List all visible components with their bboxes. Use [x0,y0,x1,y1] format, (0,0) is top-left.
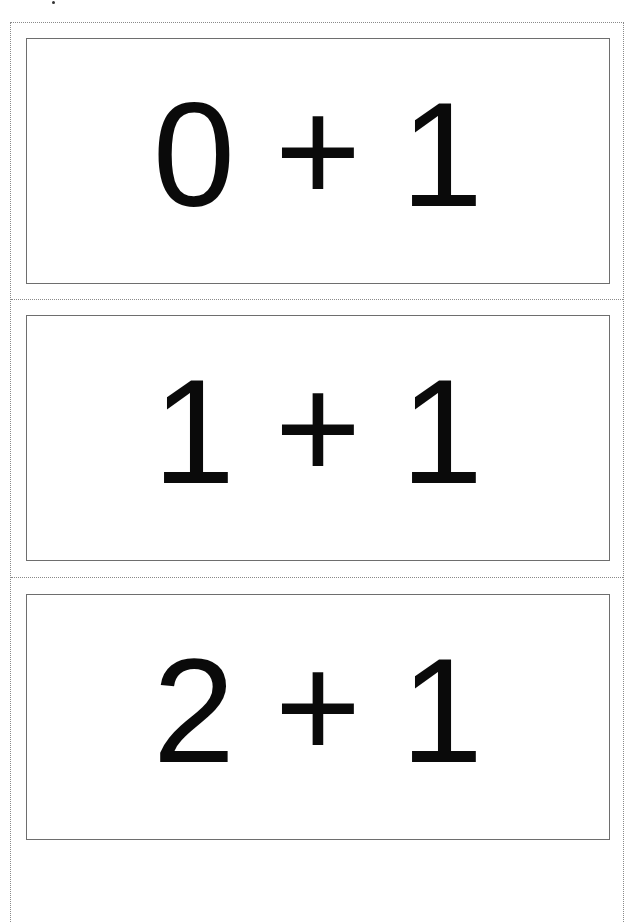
flashcard: 1 + 1 [26,315,610,561]
math-expression: 2 + 1 [149,637,487,785]
card-section-1: 0 + 1 [11,23,623,300]
math-expression: 0 + 1 [149,81,487,229]
card-section-2: 1 + 1 [11,299,623,577]
right-operand: 1 [397,637,487,785]
left-operand: 2 [149,637,239,785]
right-operand: 1 [397,81,487,229]
flashcard: 0 + 1 [26,38,610,284]
plus-operator: + [273,77,363,225]
flashcard: 2 + 1 [26,594,610,840]
plus-operator: + [273,354,363,502]
left-operand: 1 [149,358,239,506]
flashcard-sheet: 0 + 1 1 + 1 2 + 1 [10,22,624,922]
math-expression: 1 + 1 [149,358,487,506]
plus-operator: + [273,633,363,781]
card-section-3: 2 + 1 [11,577,623,855]
stray-mark [52,1,55,4]
right-operand: 1 [397,358,487,506]
left-operand: 0 [149,81,239,229]
